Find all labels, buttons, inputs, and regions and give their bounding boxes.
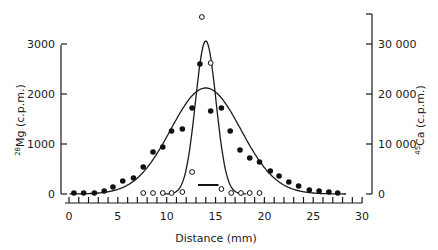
y-right-tick-label: 30 000 [378, 38, 417, 51]
y-axis-right-title: 45Ca (c.p.m.) [414, 85, 427, 155]
x-axis-title: Distance (mm) [175, 232, 257, 245]
mg-data-point [208, 108, 214, 114]
x-tick-label: 25 [306, 210, 320, 223]
x-tick-label: 15 [209, 210, 223, 223]
fitted-curves [70, 41, 347, 194]
mg-data-point [316, 188, 322, 194]
mg-fit-curve [70, 88, 347, 194]
mg-data-point [81, 190, 87, 196]
y-right-tick-label: 10 000 [378, 138, 417, 151]
mg-data-point [307, 187, 313, 193]
mg-data-point [286, 179, 292, 185]
mg-data-point [92, 190, 98, 196]
y-right-superscript: 45 [414, 146, 422, 155]
ca-data-point [247, 191, 252, 196]
y-left-tick-label: 3000 [27, 38, 55, 51]
ca-data-point [151, 191, 156, 196]
x-tick-label: 10 [160, 210, 174, 223]
ca-data-point [229, 191, 234, 196]
x-tick-label: 0 [66, 210, 73, 223]
y-axis-left-title: 28Mg (c.p.m.) [14, 84, 27, 156]
mg-data-point [140, 164, 146, 170]
mg-data-point [247, 155, 253, 161]
ca-data-point [199, 15, 204, 20]
mg-data-point [180, 126, 186, 132]
ca-data-point [180, 190, 185, 195]
y-left-label: Mg (c.p.m.) [14, 84, 27, 147]
ca-data-point [208, 61, 213, 66]
mg-data-point [219, 105, 225, 111]
mg-data-point [110, 184, 116, 190]
mg-data-point [160, 144, 166, 150]
mg-data-point [276, 173, 282, 179]
mg-data-point [71, 190, 77, 196]
mg-data-point [326, 189, 332, 195]
ca-data-point [219, 187, 224, 192]
ca-data-point [169, 191, 174, 196]
mg-data-point [101, 188, 107, 194]
ca-data-point [141, 191, 146, 196]
y-left-tick-label: 2000 [27, 88, 55, 101]
ca-data-point [257, 191, 262, 196]
y-right-tick-label: 20 000 [378, 88, 417, 101]
y-left-tick-label: 0 [48, 188, 55, 201]
mg-data-point [296, 183, 302, 189]
mg-data-point [237, 147, 243, 153]
mg-data-point [150, 149, 156, 155]
ca-data-point [160, 191, 165, 196]
x-tick-label: 5 [114, 210, 121, 223]
ca-data-point [239, 191, 244, 196]
mg-data-point [257, 159, 263, 165]
mg-data-point [227, 128, 233, 134]
data-points [71, 15, 340, 196]
y-right-label: Ca (c.p.m.) [414, 85, 427, 146]
x-tick-label: 30 [355, 210, 369, 223]
y-right-tick-label: 0 [378, 188, 385, 201]
ca-data-point [190, 170, 195, 175]
mg-data-point [120, 178, 126, 184]
mg-data-point [131, 175, 137, 181]
y-left-tick-label: 1000 [27, 138, 55, 151]
mg-data-point [197, 61, 203, 67]
chart: 0100020003000010 00020 00030 00005101520… [0, 0, 438, 250]
mg-data-point [169, 128, 175, 134]
mg-data-point [267, 168, 273, 174]
mg-data-point [335, 190, 341, 196]
y-left-superscript: 28 [14, 147, 22, 156]
x-tick-label: 20 [257, 210, 271, 223]
mg-data-point [189, 105, 195, 111]
